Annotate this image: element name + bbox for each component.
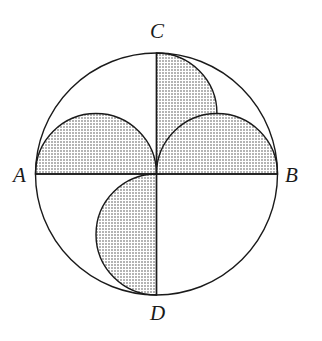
geometry-figure: A B C D bbox=[0, 0, 322, 341]
vertex-label-C: C bbox=[150, 21, 164, 42]
lobe-bottom-left bbox=[96, 174, 157, 295]
vertex-label-A: A bbox=[13, 165, 26, 186]
figure-canvas bbox=[0, 0, 322, 341]
vertex-label-D: D bbox=[150, 303, 165, 324]
lobe-top-left bbox=[36, 114, 157, 174]
vertex-label-B: B bbox=[285, 165, 298, 186]
